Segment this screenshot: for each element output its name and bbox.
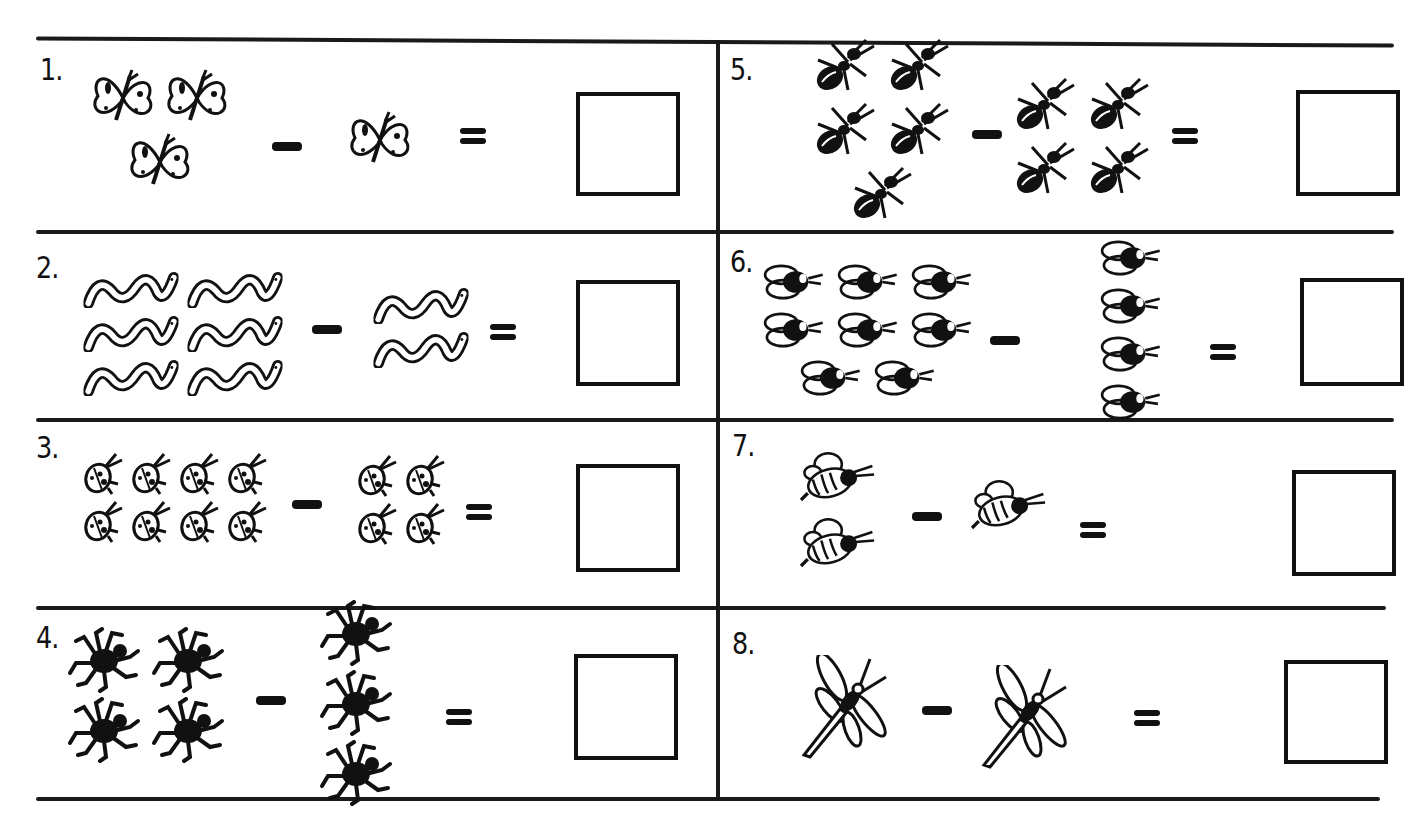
ladybug-icon bbox=[128, 452, 172, 496]
minus-sign bbox=[256, 696, 286, 705]
ant-icon bbox=[845, 162, 915, 222]
subtrahend-group bbox=[330, 95, 430, 185]
equals-sign bbox=[466, 500, 492, 524]
equals-sign bbox=[1080, 518, 1106, 542]
worm-icon bbox=[188, 358, 283, 396]
minus-sign bbox=[292, 500, 322, 509]
fly-icon bbox=[836, 262, 899, 302]
answer-box[interactable] bbox=[576, 92, 680, 196]
answer-box[interactable] bbox=[1292, 470, 1396, 576]
dragonfly-icon bbox=[790, 655, 900, 765]
ladybug-icon bbox=[80, 500, 124, 544]
butterfly-icon bbox=[88, 68, 158, 128]
answer-box[interactable] bbox=[574, 654, 678, 760]
answer-box[interactable] bbox=[1284, 660, 1388, 764]
ant-icon bbox=[808, 34, 878, 94]
problem-number: 3. bbox=[36, 430, 59, 465]
minus-sign bbox=[922, 706, 952, 715]
dragonfly-icon bbox=[970, 665, 1080, 775]
divider-row-3 bbox=[36, 606, 1386, 610]
answer-box[interactable] bbox=[576, 464, 680, 572]
spider-icon bbox=[66, 627, 146, 693]
ant-icon bbox=[882, 34, 952, 94]
worm-icon bbox=[84, 358, 179, 396]
ant-icon bbox=[882, 98, 952, 158]
ant-icon bbox=[808, 98, 878, 158]
fly-icon bbox=[762, 310, 825, 350]
minuend-group bbox=[780, 650, 910, 770]
ladybug-icon bbox=[128, 500, 172, 544]
spider-icon bbox=[318, 670, 398, 736]
bee-icon bbox=[794, 517, 876, 570]
problem-number: 5. bbox=[730, 52, 753, 87]
ladybug-icon bbox=[80, 452, 124, 496]
ladybug-icon bbox=[402, 502, 446, 546]
ladybug-icon bbox=[176, 452, 220, 496]
ant-icon bbox=[1008, 73, 1078, 133]
spider-icon bbox=[318, 600, 398, 666]
subtrahend-group bbox=[288, 618, 428, 788]
worm-icon bbox=[84, 314, 179, 352]
worm-icon bbox=[374, 286, 469, 324]
butterfly-icon bbox=[162, 68, 232, 128]
divider-row-1 bbox=[36, 230, 1394, 234]
divider-bottom bbox=[36, 797, 1380, 801]
worm-icon bbox=[84, 270, 179, 308]
bee-icon bbox=[965, 479, 1047, 532]
fly-icon bbox=[836, 310, 899, 350]
subtrahend-group bbox=[340, 440, 460, 560]
minus-sign bbox=[272, 142, 302, 151]
ant-icon bbox=[1082, 73, 1152, 133]
subtrahend-group bbox=[1060, 250, 1200, 410]
minuend-group bbox=[60, 50, 260, 210]
divider-top bbox=[36, 36, 1394, 47]
subtrahend-group bbox=[956, 470, 1056, 540]
minuend-group bbox=[780, 440, 890, 580]
answer-box[interactable] bbox=[1296, 90, 1400, 196]
fly-icon bbox=[873, 358, 936, 398]
ladybug-icon bbox=[354, 454, 398, 498]
fly-icon bbox=[1099, 382, 1162, 422]
equals-sign bbox=[490, 320, 516, 344]
ladybug-icon bbox=[402, 454, 446, 498]
worm-icon bbox=[374, 330, 469, 368]
equals-sign bbox=[460, 124, 486, 148]
problem-number: 7. bbox=[732, 428, 755, 463]
answer-box[interactable] bbox=[576, 280, 680, 386]
minus-sign bbox=[912, 512, 942, 521]
equals-sign bbox=[1210, 340, 1236, 364]
minuend-group bbox=[800, 58, 960, 198]
worm-icon bbox=[188, 314, 283, 352]
equals-sign bbox=[446, 705, 472, 729]
minus-sign bbox=[990, 336, 1020, 345]
minuend-group bbox=[48, 250, 318, 415]
problem-number: 6. bbox=[730, 244, 753, 279]
problem-number: 8. bbox=[732, 626, 755, 661]
ant-icon bbox=[1082, 137, 1152, 197]
bee-icon bbox=[794, 451, 876, 504]
fly-icon bbox=[910, 310, 973, 350]
fly-icon bbox=[799, 358, 862, 398]
minuend-group bbox=[48, 615, 248, 775]
worm-icon bbox=[188, 270, 283, 308]
subtrahend-group bbox=[960, 660, 1090, 780]
minuend-group bbox=[752, 240, 982, 420]
equals-sign bbox=[1134, 706, 1160, 730]
answer-box[interactable] bbox=[1300, 278, 1404, 386]
spider-icon bbox=[150, 697, 230, 763]
minus-sign bbox=[972, 130, 1002, 139]
ladybug-icon bbox=[176, 500, 220, 544]
spider-icon bbox=[318, 740, 398, 806]
fly-icon bbox=[910, 262, 973, 302]
fly-icon bbox=[1099, 334, 1162, 374]
subtrahend-group bbox=[1000, 60, 1160, 210]
ant-icon bbox=[1008, 137, 1078, 197]
divider-center bbox=[716, 40, 720, 800]
minuend-group bbox=[64, 428, 284, 568]
ladybug-icon bbox=[354, 502, 398, 546]
subtrahend-group bbox=[356, 252, 486, 402]
equals-sign bbox=[1172, 124, 1198, 148]
divider-row-2 bbox=[36, 418, 1394, 422]
fly-icon bbox=[1099, 238, 1162, 278]
ladybug-icon bbox=[224, 452, 268, 496]
